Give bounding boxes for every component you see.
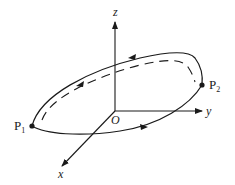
diagram-canvas: z y x O P1 P2: [0, 0, 235, 185]
point-p2: [199, 82, 204, 87]
origin-label: O: [111, 113, 120, 127]
p1-label: P1: [14, 118, 25, 135]
z-axis-label: z: [112, 5, 118, 19]
point-p1: [29, 123, 34, 128]
x-axis-label: x: [57, 167, 64, 181]
axes: [62, 22, 202, 166]
arrow-dashed-icon: [76, 81, 84, 87]
arrow-upper-icon: [128, 54, 136, 60]
y-axis-label: y: [205, 104, 212, 118]
x-axis: [62, 111, 115, 166]
line-integral-diagram: z y x O P1 P2: [0, 0, 235, 185]
p2-label: P2: [209, 77, 220, 94]
